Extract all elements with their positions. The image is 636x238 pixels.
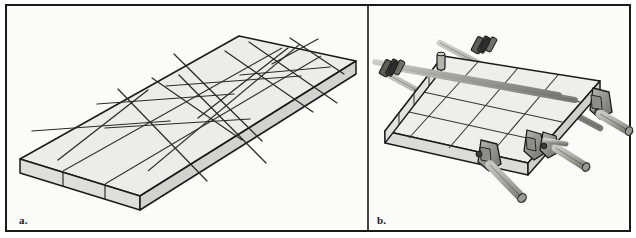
figure-root: a. b.	[0, 0, 636, 238]
panel-b-label: b.	[377, 214, 386, 226]
bench-peg	[437, 52, 445, 70]
clamp-handle-middle-lower[interactable]	[556, 148, 591, 173]
panel-a-illustration	[20, 36, 356, 210]
panel-b-illustration	[375, 36, 634, 204]
figure-illustration	[0, 0, 636, 238]
clamp-handle-right-upper[interactable]	[600, 114, 634, 137]
clamp-head-front	[471, 36, 498, 55]
panel-a-label: a.	[19, 214, 28, 226]
